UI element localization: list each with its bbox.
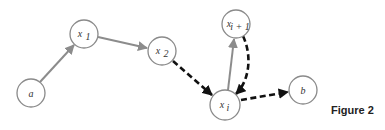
node-x1-label: x [77, 28, 83, 39]
node-xi: x i [210, 90, 240, 120]
node-xi-subscript: i [227, 102, 230, 113]
edge-x2-to-xi [173, 61, 212, 95]
path-diagram: a x 1 x 2 x i + 1 x i b [0, 0, 385, 130]
node-x1-subscript: 1 [86, 31, 91, 42]
node-x2-label: x [155, 45, 161, 56]
node-a: a [17, 79, 45, 107]
edge-xi-to-xi1 [228, 39, 234, 90]
node-x2: x 2 [148, 37, 176, 65]
edge-x1-to-x2 [98, 37, 147, 48]
node-xi-plus-1: x i + 1 [222, 10, 250, 38]
edge-xi-to-b [241, 92, 288, 100]
edge-xi1-to-xi-curved [236, 36, 248, 94]
node-x1: x 1 [70, 20, 98, 48]
figure-caption: Figure 2 [331, 104, 374, 116]
edge-a-to-x1 [40, 45, 74, 82]
node-a-label: a [29, 88, 34, 99]
node-x2-subscript: 2 [164, 48, 169, 59]
node-xi-label: x [219, 99, 225, 110]
node-b-label: b [301, 85, 306, 96]
node-xi-plus-1-subscript: i + 1 [230, 21, 250, 32]
node-b: b [289, 76, 317, 104]
